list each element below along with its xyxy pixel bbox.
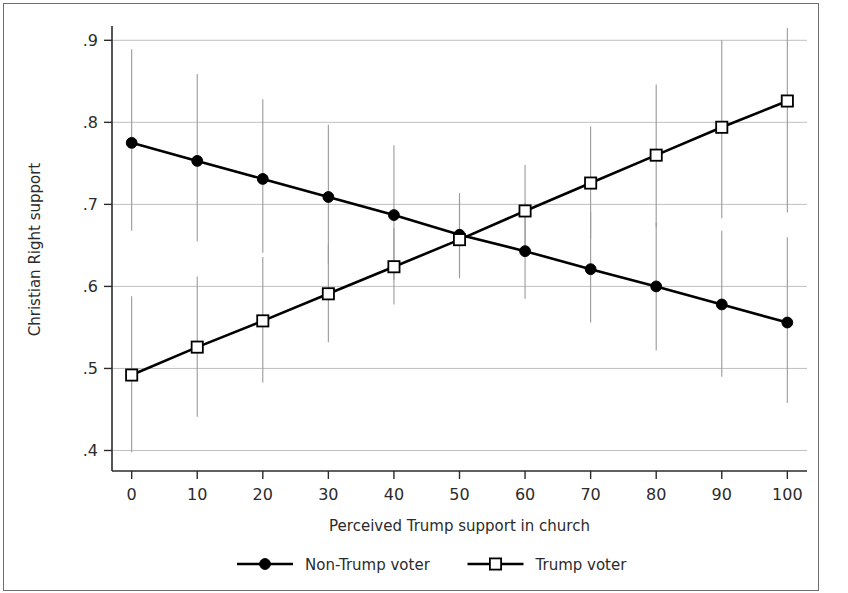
data-point-marker[interactable] bbox=[323, 192, 334, 203]
data-point-marker[interactable] bbox=[716, 299, 727, 310]
y-tick-label: .5 bbox=[83, 359, 98, 378]
data-point-marker[interactable] bbox=[454, 234, 465, 245]
x-tick-label: 50 bbox=[449, 485, 469, 504]
x-tick-label: 60 bbox=[515, 485, 535, 504]
x-tick-label: 80 bbox=[646, 485, 666, 504]
data-point-marker[interactable] bbox=[126, 137, 137, 148]
legend-label: Trump voter bbox=[535, 556, 628, 574]
data-point-marker[interactable] bbox=[585, 177, 596, 188]
y-tick-label: .6 bbox=[83, 277, 98, 296]
data-point-marker[interactable] bbox=[257, 315, 268, 326]
x-tick-label: 10 bbox=[187, 485, 207, 504]
legend-marker-open-square-icon bbox=[490, 558, 501, 569]
data-point-marker[interactable] bbox=[519, 205, 530, 216]
data-point-marker[interactable] bbox=[192, 342, 203, 353]
figure-frame: .4.5.6.7.8.90102030405060708090100Percei… bbox=[3, 3, 819, 591]
data-point-marker[interactable] bbox=[257, 174, 268, 185]
data-point-marker[interactable] bbox=[651, 150, 662, 161]
x-axis-title: Perceived Trump support in church bbox=[329, 517, 590, 535]
legend-item-2[interactable]: Trump voter bbox=[468, 556, 628, 574]
data-point-marker[interactable] bbox=[782, 95, 793, 106]
legend-label: Non-Trump voter bbox=[305, 556, 431, 574]
data-point-marker[interactable] bbox=[520, 246, 531, 257]
data-point-marker[interactable] bbox=[716, 122, 727, 133]
data-point-marker[interactable] bbox=[323, 288, 334, 299]
data-point-marker[interactable] bbox=[388, 261, 399, 272]
y-tick-label: .9 bbox=[83, 31, 98, 50]
data-point-marker[interactable] bbox=[389, 210, 400, 221]
y-tick-label: .7 bbox=[83, 195, 98, 214]
x-tick-label: 90 bbox=[712, 485, 732, 504]
data-point-marker[interactable] bbox=[192, 156, 203, 167]
series-2 bbox=[126, 95, 793, 380]
y-tick-label: .4 bbox=[83, 441, 98, 460]
legend-marker-filled-circle-icon bbox=[260, 559, 271, 570]
legend-item-1[interactable]: Non-Trump voter bbox=[237, 556, 431, 574]
chart-canvas: .4.5.6.7.8.90102030405060708090100Percei… bbox=[4, 4, 817, 589]
y-axis-title: Christian Right support bbox=[26, 163, 44, 337]
x-tick-label: 20 bbox=[253, 485, 273, 504]
x-tick-label: 30 bbox=[318, 485, 338, 504]
data-point-marker[interactable] bbox=[126, 369, 137, 380]
data-point-marker[interactable] bbox=[651, 281, 662, 292]
x-axis-ticks: 0102030405060708090100 bbox=[127, 471, 803, 504]
x-tick-label: 40 bbox=[384, 485, 404, 504]
x-tick-label: 100 bbox=[772, 485, 803, 504]
data-point-marker[interactable] bbox=[585, 264, 596, 275]
y-tick-label: .8 bbox=[83, 113, 98, 132]
y-axis-ticks: .4.5.6.7.8.9 bbox=[83, 31, 112, 460]
x-tick-label: 0 bbox=[127, 485, 137, 504]
x-tick-label: 70 bbox=[580, 485, 600, 504]
data-point-marker[interactable] bbox=[782, 317, 793, 328]
series-1 bbox=[126, 137, 792, 327]
